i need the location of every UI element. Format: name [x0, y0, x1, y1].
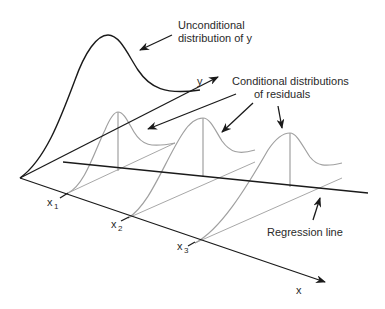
x-tick-label-1: x 1 [47, 196, 59, 211]
svg-text:x: x [47, 196, 53, 208]
unconditional-label-line2: distribution of y [178, 32, 252, 44]
regression-line-label: Regression line [267, 226, 343, 238]
x-axis-label: x [296, 284, 302, 296]
svg-text:x: x [111, 218, 117, 230]
regression-diagram: Unconditional distribution of y y Condit… [0, 0, 385, 309]
annotation-arrows [140, 35, 320, 220]
x-axis-ticks [60, 193, 195, 246]
x-tick-label-3: x 3 [177, 240, 189, 255]
svg-text:3: 3 [184, 246, 189, 255]
y-axis [20, 77, 218, 178]
svg-text:x: x [177, 240, 183, 252]
svg-text:2: 2 [118, 224, 123, 233]
svg-text:1: 1 [54, 202, 59, 211]
conditional-label-line1: Conditional distributions [232, 75, 349, 87]
regression-line [63, 162, 368, 193]
y-axis-label: y [197, 75, 203, 87]
conditional-label-line2: of residuals [254, 88, 311, 100]
unconditional-distribution-curve [20, 35, 200, 178]
conditional-distribution-curves [68, 112, 342, 243]
unconditional-label-line1: Unconditional [178, 19, 245, 31]
